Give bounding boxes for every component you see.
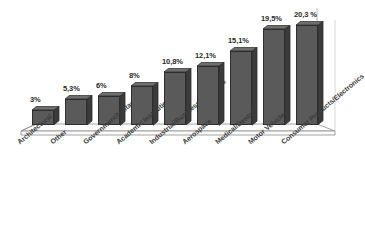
bar-top-face [164, 68, 193, 74]
bar-top-face [98, 92, 127, 98]
bar-front-face[interactable] [65, 99, 87, 125]
bar-top-face [131, 82, 160, 88]
bar-top-face [197, 62, 226, 68]
bar-value-label: 12,1% [195, 51, 216, 60]
bar-value-label: 3% [30, 95, 41, 104]
bar-value-label: 10,8% [162, 57, 183, 66]
bar-side-face [219, 62, 226, 127]
bar-value-label: 6% [96, 81, 107, 90]
bar-top-face [296, 21, 325, 27]
bar-value-label: 5,3% [63, 84, 80, 93]
bar-top-face [65, 95, 94, 101]
bar-value-label: 8% [129, 71, 140, 80]
bar-top-face [230, 47, 259, 53]
bar-value-label: 15,1% [228, 36, 249, 45]
bar-front-face[interactable] [197, 66, 219, 125]
bar-value-label: 19,5% [261, 14, 282, 23]
bar-side-face [186, 68, 193, 127]
bar-top-face [263, 25, 292, 31]
bar-value-label: 20,3 % [294, 10, 317, 19]
bar-top-face [32, 106, 61, 112]
bar-group [65, 0, 87, 240]
